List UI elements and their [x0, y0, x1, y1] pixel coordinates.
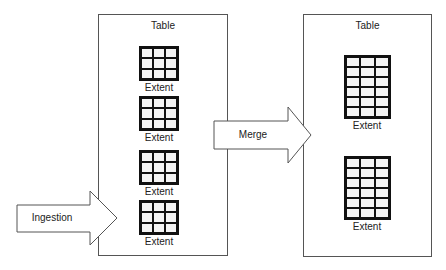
merge-arrow-icon	[0, 0, 446, 270]
merge-label: Merge	[228, 129, 278, 140]
